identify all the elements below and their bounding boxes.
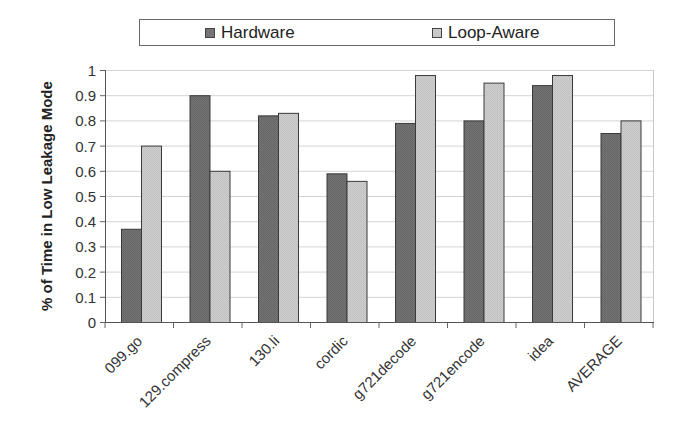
x-tick-label: idea — [524, 332, 557, 365]
bar-loop-aware — [416, 76, 436, 323]
bars — [122, 76, 642, 323]
bar-loop-aware — [347, 181, 367, 322]
bar-loop-aware — [484, 83, 504, 322]
y-tick-label: 0.5 — [75, 188, 96, 205]
x-tick-label: g721decode — [349, 332, 419, 402]
bar-loop-aware — [279, 113, 299, 322]
x-tick-labels: 099.go129.compress130.licordicg721decode… — [101, 332, 625, 411]
bar-loop-aware — [210, 171, 230, 322]
bar-chart: 00.10.20.30.40.50.60.70.80.91 099.go129.… — [0, 0, 687, 444]
x-tick-label: 099.go — [101, 332, 145, 376]
y-tick-label: 0.9 — [75, 87, 96, 104]
x-tick-label: 130.li — [245, 332, 282, 369]
bar-loop-aware — [621, 121, 641, 323]
x-tick-label: g721encode — [417, 332, 487, 402]
bar-hardware — [464, 121, 484, 323]
x-tick-label: AVERAGE — [562, 332, 625, 395]
x-tick-label: 129.compress — [135, 332, 214, 411]
y-tick-label: 0.8 — [75, 112, 96, 129]
bar-hardware — [601, 134, 621, 323]
bar-hardware — [190, 96, 210, 323]
bar-hardware — [327, 174, 347, 323]
y-tick-label: 0.7 — [75, 138, 96, 155]
y-tick-label: 0.3 — [75, 238, 96, 255]
y-tick-label: 0.4 — [75, 213, 96, 230]
y-tick-label: 0.1 — [75, 289, 96, 306]
y-tick-label: 0 — [88, 314, 96, 331]
bar-hardware — [396, 123, 416, 322]
bar-loop-aware — [553, 76, 573, 323]
y-tick-label: 0.6 — [75, 163, 96, 180]
x-tick-label: cordic — [311, 332, 352, 373]
bar-hardware — [122, 229, 142, 322]
bar-hardware — [533, 86, 553, 323]
y-tick-label: 0.2 — [75, 264, 96, 281]
y-tick-labels: 00.10.20.30.40.50.60.70.80.91 — [75, 62, 96, 331]
y-tick-label: 1 — [88, 62, 96, 79]
bar-loop-aware — [142, 146, 162, 322]
bar-hardware — [259, 116, 279, 323]
